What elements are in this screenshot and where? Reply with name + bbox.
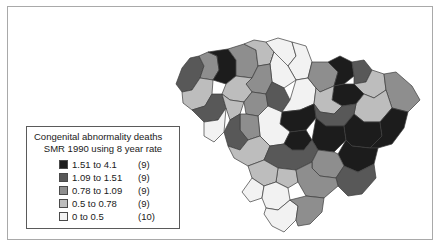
legend-title-line-2: SMR 1990 using 8 year rate [33, 143, 173, 155]
legend-row: 1.51 to 4.1(9) [59, 158, 173, 171]
legend-swatch [59, 212, 68, 221]
legend-row: 0.5 to 0.78(9) [59, 197, 173, 210]
county-polygon-group [176, 38, 420, 232]
legend-count-label: (9) [138, 159, 150, 170]
figure-container: Congenital abnormality deaths SMR 1990 u… [0, 0, 442, 252]
legend-count-label: (10) [138, 211, 155, 222]
legend-row: 1.09 to 1.51(9) [59, 171, 173, 184]
legend-count-label: (9) [138, 185, 150, 196]
legend-swatch [59, 186, 68, 195]
legend-row: 0.78 to 1.09(9) [59, 184, 173, 197]
legend-range-label: 1.09 to 1.51 [72, 172, 138, 183]
legend-title-line-1: Congenital abnormality deaths [33, 131, 173, 143]
legend-row: 0 to 0.5(10) [59, 210, 173, 223]
legend-row-list: 1.51 to 4.1(9)1.09 to 1.51(9)0.78 to 1.0… [33, 158, 173, 223]
legend-swatch [59, 160, 68, 169]
legend-swatch [59, 173, 68, 182]
legend-range-label: 0.5 to 0.78 [72, 198, 138, 209]
map-legend: Congenital abnormality deaths SMR 1990 u… [26, 126, 180, 229]
legend-count-label: (9) [138, 198, 150, 209]
legend-count-label: (9) [138, 172, 150, 183]
legend-range-label: 0.78 to 1.09 [72, 185, 138, 196]
legend-range-label: 0 to 0.5 [72, 211, 138, 222]
legend-range-label: 1.51 to 4.1 [72, 159, 138, 170]
legend-swatch [59, 199, 68, 208]
